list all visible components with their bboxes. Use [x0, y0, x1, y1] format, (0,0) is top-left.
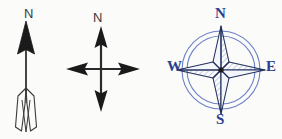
arrow-fletching-right [26, 88, 37, 131]
figure-direction-cross: N [62, 0, 162, 139]
compass-north-label: N [215, 6, 226, 21]
direction-cross-graphic [62, 0, 162, 139]
cross-north-label: N [93, 11, 102, 24]
compass-west-label: W [167, 59, 182, 74]
diagram-canvas: N N [0, 0, 282, 139]
compass-center-dot [218, 67, 223, 72]
arrow-north-label: N [24, 7, 33, 20]
compass-south-label: S [216, 112, 224, 127]
compass-east-label: E [266, 59, 276, 74]
arrow-fletching-left [16, 88, 27, 131]
arrow-head [18, 21, 35, 54]
figure-compass-rose: N S W E [160, 0, 282, 139]
